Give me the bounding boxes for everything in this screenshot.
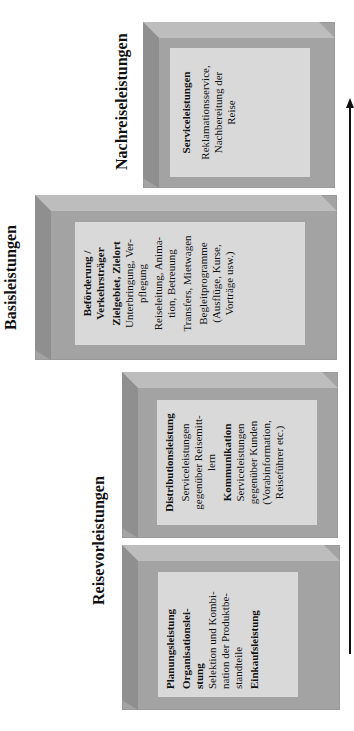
box-line: Zielgebiet, Zielort	[110, 230, 123, 337]
arrow-up-icon	[346, 98, 354, 108]
box-top-face	[122, 545, 340, 561]
box-line: Transfers, Mietwagen	[181, 230, 194, 337]
box-line: Einkaufsleistung	[248, 580, 261, 689]
box-side-face	[35, 195, 51, 360]
box-line: Serviceleistungen	[179, 408, 192, 517]
box-line: Organisationslei-	[180, 580, 193, 689]
box-top-face	[35, 195, 337, 211]
box-line: Reise	[225, 56, 238, 169]
box-top-face	[122, 372, 338, 388]
box-line: (Vorabinformation,	[260, 408, 273, 517]
box-top-face	[143, 22, 335, 38]
box-panel: Planungsleistung Organisationslei- stung…	[158, 572, 298, 697]
box-line: Begleitprogramme	[197, 230, 210, 337]
box-planungsleistung: Planungsleistung Organisationslei- stung…	[122, 545, 340, 710]
time-arrow-line	[349, 106, 351, 654]
box-panel: Beförderung / Verkehrsträger Zielgebiet,…	[75, 222, 305, 345]
box-distributionsleistung: Distributionsleistung Serviceleistungen …	[122, 372, 338, 538]
box-line: Planungsleistung	[164, 580, 177, 689]
box-line: Beförderung /	[81, 230, 94, 337]
box-line: gegenüber Kunden	[247, 408, 260, 517]
box-line: Reklamationsservice,	[199, 56, 212, 169]
box-side-face	[143, 22, 159, 188]
box-line: Selektion und Kombi-	[206, 580, 219, 689]
box-line: Verkehrsträger	[94, 230, 107, 337]
box-line: Reiseleitung, Anima-	[152, 230, 165, 337]
box-line: pflegung	[136, 230, 149, 337]
box-line: Serviceleistungen	[234, 408, 247, 517]
box-line: Reiseführer etc.)	[273, 408, 286, 517]
box-basisleistungen: Beförderung / Verkehrsträger Zielgebiet,…	[35, 195, 337, 360]
box-line: Serviceleistungen	[180, 56, 193, 169]
box-panel: Serviceleistungen Reklamationsservice, N…	[170, 48, 310, 177]
box-line: Distributionsleistung	[163, 408, 176, 517]
box-panel: Distributionsleistung Serviceleistungen …	[157, 400, 317, 525]
heading-nachreiseleistungen: Nachreiseleistungen	[113, 33, 131, 170]
box-line: Nachbereitung der	[212, 56, 225, 169]
box-nachreiseleistungen: Serviceleistungen Reklamationsservice, N…	[143, 22, 335, 188]
box-line: Vorträge usw.)	[223, 230, 236, 337]
heading-basisleistungen: Basisleistungen	[2, 225, 20, 330]
box-line: standteile	[232, 580, 245, 689]
box-line: gegenüber Reisemitt-	[192, 408, 205, 517]
box-line: lern	[205, 408, 218, 517]
box-side-face	[122, 545, 138, 710]
heading-reisevorleistungen: Reisevorleistungen	[90, 476, 108, 605]
box-side-face	[122, 372, 138, 538]
box-line: stung	[193, 580, 206, 689]
box-line: (Ausflüge, Kurse,	[210, 230, 223, 337]
box-line: tion, Betreuung	[165, 230, 178, 337]
box-line: Kommunikation	[221, 408, 234, 517]
box-line: nation der Produktbe-	[219, 580, 232, 689]
box-line: Unterbringung, Ver-	[123, 230, 136, 337]
